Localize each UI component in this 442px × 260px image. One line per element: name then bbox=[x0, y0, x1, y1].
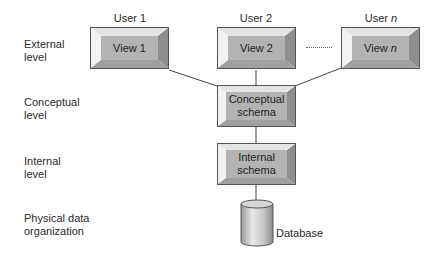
view-1-box: View 1 bbox=[90, 27, 169, 69]
user-1-label: User 1 bbox=[90, 12, 170, 24]
view-2-text: View 2 bbox=[218, 28, 295, 68]
view-n-box: View n bbox=[341, 27, 420, 69]
physical-level-label: Physical data organization bbox=[24, 212, 89, 238]
view-2-box: View 2 bbox=[217, 27, 296, 69]
user-n-label: User n bbox=[341, 12, 421, 24]
internal-level-label: Internal level bbox=[24, 155, 61, 181]
conceptual-schema-box: Conceptual schema bbox=[217, 85, 296, 127]
conceptual-level-label: Conceptual level bbox=[24, 96, 80, 122]
internal-schema-text: Internal schema bbox=[218, 144, 295, 184]
ellipsis-dots bbox=[306, 47, 332, 48]
user-2-label: User 2 bbox=[216, 12, 296, 24]
conceptual-schema-text: Conceptual schema bbox=[218, 86, 295, 126]
internal-schema-box: Internal schema bbox=[217, 143, 296, 185]
view-n-text: View n bbox=[342, 28, 419, 68]
view-1-text: View 1 bbox=[91, 28, 168, 68]
database-cylinder-icon bbox=[239, 198, 275, 250]
external-level-label: External level bbox=[24, 38, 64, 64]
database-label: Database bbox=[276, 227, 323, 239]
